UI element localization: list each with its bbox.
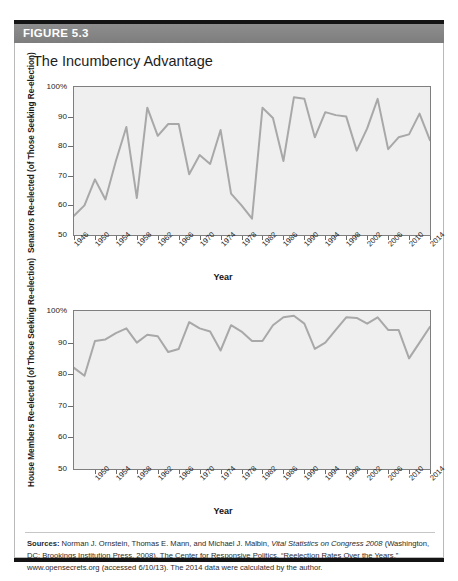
house-data-line [74,311,430,469]
bottom-rule [14,558,444,562]
figure-header-bar: FIGURE 5.3 [14,24,444,43]
senate-plot-area [73,86,431,236]
house-x-axis-title: Year [15,506,431,516]
house-y-axis-title: House Members Re-elected (of Those Seeki… [27,312,37,487]
house-y-tick-label: 90 [58,339,67,347]
senate-y-axis-title-line2: (of Those Seeking Re-election) [27,52,36,172]
senate-y-tick-labels: 5060708090100% [41,86,67,236]
house-y-tick-labels: 5060708090100% [41,310,67,470]
sources-prefix: Sources: [27,539,60,548]
senate-x-tick-labels: 1946195019541958196219661970197419781982… [74,242,430,270]
figure-title: The Incumbency Advantage [33,53,213,69]
house-y-tick-label: 60 [58,433,67,441]
senate-y-axis-title-line1: Senators Re-elected [27,174,36,253]
sources-text-part1: Norman J. Ornstein, Thomas E. Mann, and … [60,539,272,548]
house-x-tick-labels: 1950195419581962196619701974197819821986… [74,476,430,504]
house-chart: House Members Re-elected (of Those Seeki… [15,306,445,538]
source-divider [25,532,435,533]
senate-y-tick-label: 60 [58,201,67,209]
senate-y-tick-label: 50 [58,231,67,239]
figure-sources: Sources: Norman J. Ornstein, Thomas E. M… [27,538,435,573]
house-y-axis-title-line1: House Members Re-elected [27,380,36,487]
house-y-tick-label: 50 [58,465,67,473]
senate-x-axis-title: Year [15,272,431,282]
senate-y-tick-label: 100% [47,83,67,91]
senate-y-tick-label: 90 [58,113,67,121]
figure-card: FIGURE 5.3 The Incumbency Advantage Sena… [14,20,444,562]
senate-data-line [74,87,430,235]
house-y-axis-title-line2: (of Those Seeking Re-election) [27,258,36,378]
sources-italic-title: Vital Statistics on Congress 2008 [271,539,382,548]
house-plot-area [73,310,431,470]
house-y-tick-label: 100% [47,307,67,315]
figure-body: The Incumbency Advantage Senators Re-ele… [14,43,444,558]
house-y-tick-label: 80 [58,370,67,378]
house-y-tick-label: 70 [58,402,67,410]
figure-number-label: FIGURE 5.3 [23,27,89,39]
senate-chart: Senators Re-elected (of Those Seeking Re… [15,78,445,308]
senate-y-axis-title: Senators Re-elected (of Those Seeking Re… [27,88,37,253]
senate-y-tick-label: 80 [58,142,67,150]
senate-y-tick-label: 70 [58,172,67,180]
